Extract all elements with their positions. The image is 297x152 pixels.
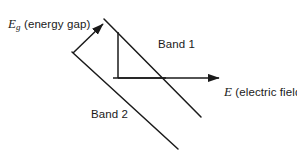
energy-gap-subscript: g	[16, 22, 21, 32]
energy-gap-text: (energy gap)	[24, 18, 90, 30]
band-2-label: Band 2	[91, 108, 128, 121]
band-diagram-figure: Eg (energy gap) Band 1 Band 2 E (electri…	[0, 0, 297, 152]
energy-gap-symbol: E	[8, 16, 16, 31]
band-1-label: Band 1	[158, 38, 195, 51]
electric-field-symbol: E	[224, 84, 232, 99]
electric-field-label: E (electric field)	[224, 85, 297, 99]
energy-gap-label: Eg (energy gap)	[8, 17, 90, 34]
band-2-line	[72, 52, 178, 149]
electric-field-text: (electric field)	[235, 86, 297, 98]
